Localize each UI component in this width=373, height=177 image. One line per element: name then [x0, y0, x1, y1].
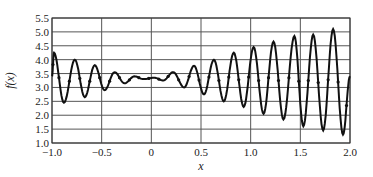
- x-axis-label: x: [197, 159, 204, 173]
- svg-text:2.0: 2.0: [343, 146, 357, 158]
- svg-text:−0.5: −0.5: [92, 146, 112, 158]
- svg-text:3.5: 3.5: [35, 68, 49, 80]
- x-tick-labels: −1.0−0.500.51.01.52.0: [42, 146, 357, 158]
- svg-text:2.0: 2.0: [35, 109, 49, 121]
- svg-text:1.5: 1.5: [35, 123, 49, 135]
- svg-text:2.5: 2.5: [35, 95, 49, 107]
- svg-text:−1.0: −1.0: [42, 146, 62, 158]
- svg-text:1.0: 1.0: [244, 146, 258, 158]
- svg-text:0.5: 0.5: [194, 146, 208, 158]
- svg-text:4.5: 4.5: [35, 40, 49, 52]
- line-chart: 1.01.52.02.53.03.54.04.55.05.5 −1.0−0.50…: [0, 0, 373, 177]
- svg-text:1.5: 1.5: [293, 146, 307, 158]
- y-axis-label: f(x): [3, 72, 17, 89]
- svg-text:5.0: 5.0: [35, 26, 49, 38]
- y-tick-labels: 1.01.52.02.53.03.54.04.55.05.5: [35, 12, 49, 149]
- grid-lines: [52, 18, 350, 143]
- svg-text:0: 0: [149, 146, 155, 158]
- svg-text:4.0: 4.0: [35, 54, 49, 66]
- svg-text:3.0: 3.0: [35, 81, 49, 93]
- svg-text:5.5: 5.5: [35, 12, 49, 24]
